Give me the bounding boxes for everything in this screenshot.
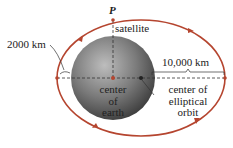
point-p-label: P bbox=[109, 5, 116, 16]
semi-major-brace bbox=[152, 69, 224, 75]
center-of-orbit-point bbox=[139, 76, 143, 80]
center-of-earth-point bbox=[111, 76, 115, 80]
altitude-label: 2000 km bbox=[7, 39, 46, 50]
center-of-earth-label-line1: center bbox=[93, 84, 133, 95]
center-of-earth-label-line3: earth bbox=[93, 107, 133, 118]
semi-major-label: 10,000 km bbox=[162, 57, 209, 68]
center-of-orbit-label-line3: orbit bbox=[158, 107, 218, 118]
center-of-orbit-label-line1: center of bbox=[158, 84, 218, 95]
altitude-bracket bbox=[60, 72, 70, 74]
left-vertex-point bbox=[55, 76, 59, 80]
orbit-diagram: P satellite 2000 km 10,000 km center of … bbox=[0, 0, 233, 148]
satellite-label: satellite bbox=[115, 23, 149, 34]
right-vertex-point bbox=[223, 76, 227, 80]
